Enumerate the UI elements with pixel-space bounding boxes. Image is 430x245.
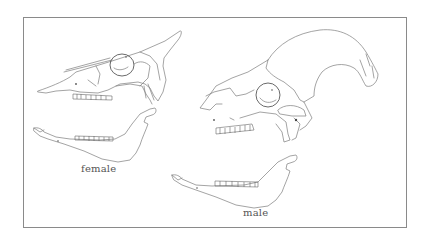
male-skull [200,30,378,142]
female-label: female [81,163,116,174]
male-label: male [243,207,268,218]
male-mandible [172,155,297,208]
female-skull [38,31,181,104]
skulls-drawing [0,0,430,245]
female-mandible [34,108,156,162]
